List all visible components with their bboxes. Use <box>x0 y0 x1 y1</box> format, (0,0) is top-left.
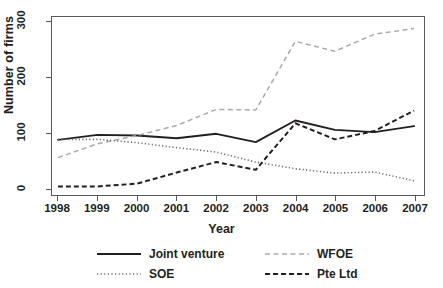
x-tick-mark <box>415 196 416 201</box>
x-tick-label: 2003 <box>234 202 278 214</box>
legend-swatch-wfoe <box>264 248 310 260</box>
legend-label-soe: SOE <box>149 268 174 280</box>
y-tick-label: 300 <box>15 0 27 40</box>
legend-item-pte-ltd: Pte Ltd <box>264 265 358 283</box>
y-tick-label: 200 <box>15 56 27 96</box>
y-tick-label: 100 <box>15 112 27 152</box>
x-tick-label: 2004 <box>274 202 318 214</box>
series-line-soe <box>58 139 414 181</box>
x-tick-label: 1998 <box>35 202 79 214</box>
x-tick-mark <box>137 196 138 201</box>
x-tick-mark <box>296 196 297 201</box>
x-axis-label: Year <box>0 222 443 236</box>
x-tick-label: 2007 <box>393 202 437 214</box>
x-tick-mark <box>256 196 257 201</box>
legend-swatch-pte-ltd <box>264 268 310 280</box>
x-tick-mark <box>97 196 98 201</box>
series-line-joint-venture <box>58 121 414 143</box>
x-tick-label: 2001 <box>154 202 198 214</box>
legend-swatch-soe <box>96 268 142 280</box>
x-tick-mark <box>176 196 177 201</box>
legend-swatch-joint-venture <box>96 248 142 260</box>
x-tick-label: 1999 <box>75 202 119 214</box>
legend-label-joint-venture: Joint venture <box>149 248 224 260</box>
legend-item-soe: SOE <box>96 265 174 283</box>
series-line-pte-ltd <box>58 111 414 187</box>
x-tick-mark <box>375 196 376 201</box>
y-axis-label: Number of firms <box>2 5 16 125</box>
legend-item-joint-venture: Joint venture <box>96 245 224 263</box>
x-tick-mark <box>57 196 58 201</box>
y-tick-label: 0 <box>15 168 27 208</box>
series-lines <box>52 17 424 195</box>
legend-item-wfoe: WFOE <box>264 245 353 263</box>
x-tick-label: 2002 <box>194 202 238 214</box>
plot-area <box>51 16 425 196</box>
chart-figure: Number of firms 0100200300 1998199920002… <box>0 0 443 288</box>
chart-legend: Joint venture SOE WFOE Pte Ltd <box>96 245 396 285</box>
x-tick-label: 2006 <box>353 202 397 214</box>
x-tick-mark <box>335 196 336 201</box>
x-tick-mark <box>216 196 217 201</box>
legend-label-wfoe: WFOE <box>317 248 353 260</box>
x-tick-label: 2000 <box>115 202 159 214</box>
legend-label-pte-ltd: Pte Ltd <box>317 268 358 280</box>
x-tick-label: 2005 <box>313 202 357 214</box>
